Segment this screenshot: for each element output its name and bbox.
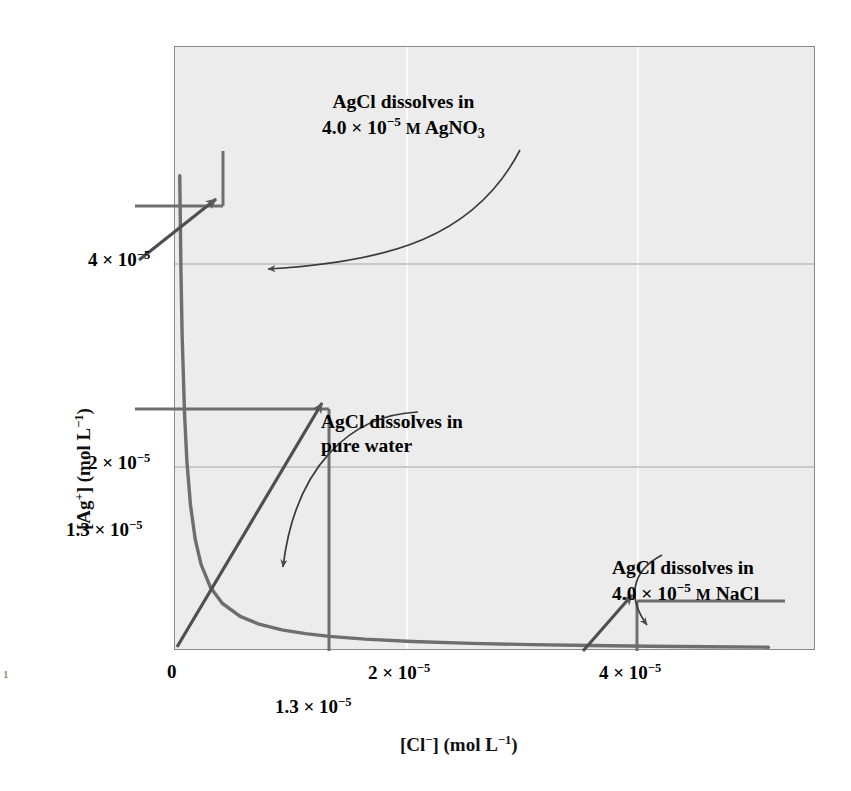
guide-lines-pure-water bbox=[135, 409, 329, 651]
y-tick-1-3e-5: 1.3 × 10−5 bbox=[66, 518, 142, 541]
annotation-nacl: AgCl dissolves in 4.0 × 10−5 M NaCl bbox=[612, 556, 759, 605]
x-tick-0: 0 bbox=[167, 661, 177, 683]
arrow-to-agno3-point bbox=[139, 199, 216, 260]
annotation-nacl-line2: 4.0 × 10−5 M NaCl bbox=[612, 580, 759, 605]
annotation-pure-water-line1: AgCl dissolves in bbox=[321, 410, 463, 434]
x-axis-title: [Cl−] (mol L−1) bbox=[400, 733, 518, 756]
leader-line-agno3 bbox=[268, 150, 520, 269]
guide-lines-nacl bbox=[637, 601, 785, 651]
arrow-to-pure-water-point bbox=[177, 403, 322, 647]
annotation-pure-water: AgCl dissolves in pure water bbox=[321, 410, 463, 458]
x-tick-4e-5: 4 × 10−5 bbox=[599, 661, 661, 684]
annotation-agno3: AgCl dissolves in 4.0 × 10−5 M AgNO3 bbox=[322, 90, 485, 142]
page-marker: 1 bbox=[3, 668, 9, 680]
x-tick-1-3e-5: 1.3 × 10−5 bbox=[275, 695, 351, 718]
annotation-nacl-line1: AgCl dissolves in bbox=[612, 556, 759, 580]
annotation-agno3-line1: AgCl dissolves in bbox=[322, 90, 485, 114]
annotation-agno3-line2: 4.0 × 10−5 M AgNO3 bbox=[322, 114, 485, 143]
y-tick-2e-5: 2 × 10−5 bbox=[88, 451, 150, 474]
y-tick-4e-5: 4 × 10−5 bbox=[88, 248, 150, 271]
x-tick-2e-5: 2 × 10−5 bbox=[368, 661, 430, 684]
annotation-pure-water-line2: pure water bbox=[321, 434, 463, 458]
